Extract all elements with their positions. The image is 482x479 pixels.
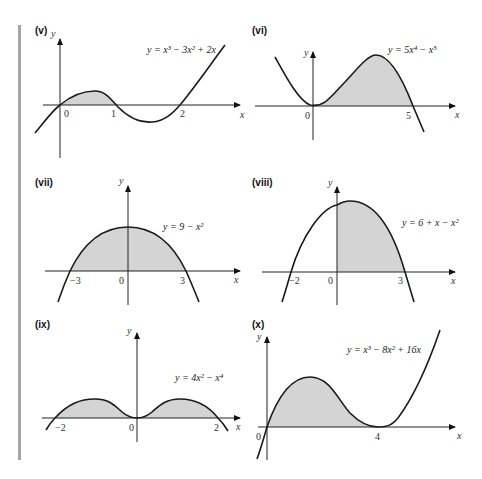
shaded-area — [337, 201, 405, 272]
x-tick: 0 — [119, 275, 124, 286]
x-tick: 0 — [328, 275, 333, 286]
x-tick: 0 — [129, 422, 134, 433]
x-tick: 3 — [398, 275, 403, 286]
y-axis-label: y — [256, 331, 262, 342]
panel-label: (viii) — [252, 177, 273, 188]
equation: y = 9 − x² — [162, 221, 204, 232]
equation: y = 5x⁴ − x⁵ — [387, 44, 437, 55]
curve — [35, 45, 225, 133]
x-tick: 2 — [180, 108, 185, 119]
x-axis-label: x — [456, 430, 462, 441]
panel-label: (v) — [35, 25, 47, 36]
x-axis-label: x — [233, 274, 239, 285]
x-tick: 0 — [256, 431, 261, 442]
x-tick: −2 — [289, 275, 300, 286]
panel-label: (ix) — [35, 319, 50, 330]
x-tick: 5 — [406, 110, 411, 121]
panel-x: (x) y x 0 4 y = x³ − 8x² + 16x — [252, 319, 462, 460]
y-axis-label: y — [303, 47, 309, 58]
equation: y = 6 + x − x² — [401, 217, 460, 228]
graphs-figure: (v) y x 0 1 2 y = x³ − 3x² + 2x (vi) y x… — [0, 0, 482, 479]
y-axis-label: y — [50, 28, 56, 39]
panel-v: (v) y x 0 1 2 y = x³ − 3x² + 2x — [35, 25, 245, 158]
x-tick: 4 — [375, 431, 380, 442]
x-tick: 0 — [305, 110, 310, 121]
shaded-area — [60, 91, 115, 105]
panel-vii: (vii) y x −3 0 3 y = 9 − x² — [35, 175, 240, 305]
panel-vi: (vi) y x 0 5 y = 5x⁴ − x⁵ — [252, 25, 460, 140]
x-axis-label: x — [239, 109, 245, 120]
x-tick: −3 — [70, 275, 81, 286]
panel-label: (vii) — [35, 177, 53, 188]
y-axis-label: y — [327, 177, 333, 188]
textbook-page: (v) y x 0 1 2 y = x³ − 3x² + 2x (vi) y x… — [0, 0, 482, 479]
y-axis-label: y — [118, 175, 124, 186]
panel-label: (vi) — [252, 25, 267, 36]
equation: y = 4x² − x⁴ — [174, 372, 224, 383]
equation: y = x³ − 8x² + 16x — [346, 344, 422, 355]
equation: y = x³ − 3x² + 2x — [146, 44, 217, 55]
shaded-area — [267, 377, 378, 427]
y-axis-label: y — [126, 325, 132, 336]
x-axis-label: x — [450, 275, 456, 286]
x-tick: −2 — [55, 422, 66, 433]
x-tick: 1 — [111, 108, 116, 119]
panel-label: (x) — [252, 319, 264, 330]
x-tick: 2 — [214, 422, 219, 433]
x-tick: 3 — [180, 275, 185, 286]
x-tick: 0 — [64, 108, 69, 119]
panel-ix: (ix) y x −2 0 2 y = 4x² − x⁴ — [35, 319, 241, 442]
x-axis-label: x — [454, 109, 460, 120]
x-axis-label: x — [235, 421, 241, 432]
panel-viii: (viii) y x −2 0 3 y = 6 + x − x² — [252, 177, 460, 305]
